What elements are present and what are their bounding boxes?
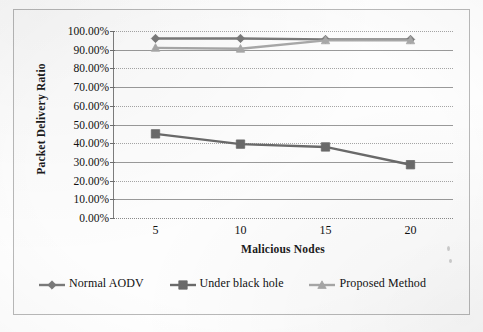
series-under-black-hole	[151, 130, 414, 169]
x-tick-label: 20	[386, 223, 436, 238]
y-tick-label: 70.00%	[47, 81, 109, 93]
x-axis-tick-labels: 5101520	[113, 223, 453, 241]
legend-item-normal-aodv[interactable]: Normal AODV	[38, 276, 144, 291]
legend-item-under-black-hole[interactable]: Under black hole	[169, 276, 284, 291]
y-tick-mark	[110, 218, 115, 219]
y-tick-label: 90.00%	[47, 44, 109, 56]
chart-legend: Normal AODVUnder black holeProposed Meth…	[22, 272, 442, 294]
y-tick-label: 10.00%	[47, 193, 109, 205]
legend-label: Normal AODV	[69, 276, 144, 291]
x-axis-title: Malicious Nodes	[113, 243, 453, 255]
data-point-diamond-marker	[236, 34, 244, 42]
legend-diamond-icon	[38, 277, 66, 289]
y-axis-tick-labels: 0.00%10.00%20.00%30.00%40.00%50.00%60.00…	[47, 31, 109, 218]
legend-item-proposed-method[interactable]: Proposed Method	[308, 276, 426, 291]
x-tick-label: 10	[216, 223, 266, 238]
y-tick-label: 20.00%	[47, 175, 109, 187]
y-tick-label: 50.00%	[47, 119, 109, 131]
data-point-square-marker	[321, 143, 329, 151]
series-line	[156, 134, 411, 165]
y-axis-title: Packet Delivery Ratio	[35, 39, 47, 199]
y-tick-label: 0.00%	[47, 212, 109, 224]
chart-area: Packet Delivery Ratio 0.00%10.00%20.00%3…	[13, 9, 470, 315]
gridline	[114, 218, 453, 219]
series-line	[156, 40, 411, 48]
y-tick-label: 80.00%	[47, 62, 109, 74]
x-tick-label: 15	[301, 223, 351, 238]
legend-triangle-icon	[308, 277, 336, 289]
y-tick-label: 30.00%	[47, 156, 109, 168]
legend-label: Proposed Method	[339, 276, 426, 291]
series-normal-aodv	[151, 34, 414, 43]
legend-label: Under black hole	[200, 276, 284, 291]
data-point-square-marker	[151, 130, 159, 138]
y-tick-label: 100.00%	[47, 25, 109, 37]
y-tick-label: 40.00%	[47, 137, 109, 149]
data-point-square-marker	[236, 140, 244, 148]
y-tick-label: 60.00%	[47, 100, 109, 112]
x-tick-label: 5	[131, 223, 181, 238]
data-point-diamond-marker	[151, 34, 159, 42]
legend-square-icon	[169, 277, 197, 289]
data-point-square-marker	[406, 161, 414, 169]
series-layer	[113, 31, 453, 218]
